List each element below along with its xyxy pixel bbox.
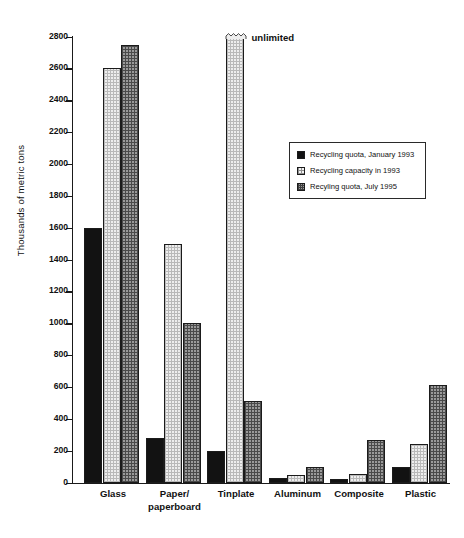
chart-legend: Recycling quota, January 1993 Recycling … — [289, 142, 426, 199]
legend-swatch-light-stipple-icon — [297, 167, 305, 175]
legend-swatch-solid-black-icon — [297, 151, 305, 159]
bar — [183, 323, 201, 482]
legend-swatch-dark-crosshatch-icon — [297, 183, 305, 191]
bar-group — [269, 37, 327, 483]
bar — [392, 467, 410, 483]
bar — [269, 478, 287, 483]
bar — [146, 438, 164, 483]
legend-label-1: Recycling capacity in 1993 — [310, 166, 400, 175]
bar — [429, 385, 447, 482]
bar-group — [84, 37, 142, 483]
bar — [306, 467, 324, 483]
bar — [410, 444, 428, 482]
y-axis-line — [72, 36, 73, 484]
y-tick-label: 400 — [54, 413, 68, 423]
bar — [226, 37, 244, 483]
y-tick-label: 1800 — [49, 190, 68, 200]
bar — [330, 479, 348, 483]
y-tick-label: 1600 — [49, 222, 68, 232]
bar — [349, 474, 367, 483]
y-axis-title: Thousands of metric tons — [15, 101, 26, 301]
bar — [103, 68, 121, 482]
y-tick-label: 2200 — [49, 126, 68, 136]
y-tick-label: 600 — [54, 381, 68, 391]
bar — [121, 45, 139, 483]
bar-group — [207, 37, 265, 483]
bar — [207, 451, 225, 483]
y-tick-label: 2400 — [49, 94, 68, 104]
legend-item-1: Recycling capacity in 1993 — [297, 166, 419, 175]
bar-group — [392, 37, 450, 483]
y-tick-label: 1200 — [49, 285, 68, 295]
y-tick-label: 2000 — [49, 158, 68, 168]
y-tick-label: 1000 — [49, 317, 68, 327]
bar-group — [146, 37, 204, 483]
unlimited-annotation: unlimited — [252, 32, 295, 43]
legend-item-0: Recycling quota, January 1993 — [297, 150, 419, 159]
x-axis-line — [72, 483, 450, 484]
bar-group — [330, 37, 388, 483]
x-axis-label-plastic: Plastic — [374, 488, 464, 501]
y-tick-label: 800 — [54, 349, 68, 359]
y-tick-label: 2800 — [49, 31, 68, 41]
bar — [244, 401, 262, 482]
plot-area: 0200400600800100012001400160018002000220… — [72, 36, 450, 484]
y-tick-label: 0 — [63, 477, 68, 487]
legend-item-2: Recyling quota, July 1995 — [297, 182, 419, 191]
bar — [287, 475, 305, 483]
y-tick-label: 2600 — [49, 62, 68, 72]
y-tick-label: 1400 — [49, 254, 68, 264]
bar — [84, 228, 102, 483]
y-tick-label: 200 — [54, 445, 68, 455]
bar — [367, 440, 385, 483]
legend-label-0: Recycling quota, January 1993 — [310, 150, 414, 159]
bar-chart-figure: Thousands of metric tons 020040060080010… — [0, 0, 464, 538]
legend-label-2: Recyling quota, July 1995 — [310, 182, 397, 191]
bar — [164, 244, 182, 483]
